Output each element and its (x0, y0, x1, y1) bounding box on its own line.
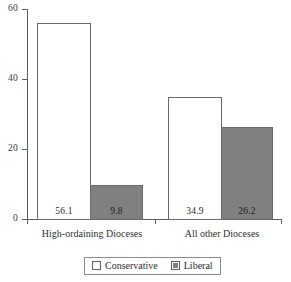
y-axis-tick-40 (22, 79, 28, 80)
legend-label-conservative: Conservative (105, 260, 158, 271)
y-axis-label-20: 20 (0, 144, 18, 154)
x-axis-group-label-high-ordaining: High-ordaining Dioceses (22, 228, 162, 240)
bar-all-other-liberal[interactable]: 26.2 (221, 127, 273, 220)
x-axis-group-label-all-other: All other Dioceses (160, 228, 284, 240)
legend-label-liberal: Liberal (184, 260, 213, 271)
chart-legend: Conservative Liberal (84, 257, 221, 275)
bar-value-label: 34.9 (169, 206, 221, 216)
bar-all-other-conservative[interactable]: 34.9 (168, 97, 222, 220)
x-axis-tick-start (27, 219, 28, 224)
bar-chart: 60 40 20 0 56.1 9.8 34.9 26.2 High-ordai… (0, 0, 291, 282)
legend-entry-conservative[interactable]: Conservative (92, 260, 158, 271)
legend-entry-liberal[interactable]: Liberal (171, 260, 213, 271)
y-axis-label-40: 40 (0, 74, 18, 84)
y-axis-label-0: 0 (0, 214, 18, 224)
y-axis-line (27, 9, 28, 220)
bar-value-label: 56.1 (38, 206, 90, 216)
bar-high-ordaining-liberal[interactable]: 9.8 (90, 185, 143, 220)
plot-area: 60 40 20 0 56.1 9.8 34.9 26.2 (0, 0, 291, 226)
bar-high-ordaining-conservative[interactable]: 56.1 (37, 23, 91, 220)
y-axis-label-60: 60 (0, 4, 18, 14)
legend-swatch-conservative-icon (92, 261, 101, 270)
x-axis-tick-end (281, 219, 282, 224)
bar-value-label: 9.8 (91, 206, 142, 216)
y-axis-tick-20 (22, 149, 28, 150)
x-axis-tick-mid (155, 219, 156, 224)
bar-value-label: 26.2 (222, 206, 272, 216)
legend-swatch-liberal-icon (171, 261, 180, 270)
y-axis-tick-60 (22, 9, 28, 10)
